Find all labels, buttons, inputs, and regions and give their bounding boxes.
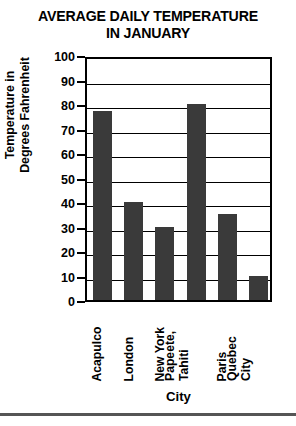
y-axis-tick-label: 70 xyxy=(61,125,75,137)
y-axis-tick xyxy=(77,154,85,156)
y-axis-tick-label: 60 xyxy=(61,149,75,161)
bar xyxy=(218,214,237,300)
plot-area xyxy=(85,57,272,302)
y-axis-title-line-1: Temperature in xyxy=(3,71,17,160)
x-axis-tick-label: QuebecCity xyxy=(226,336,253,381)
x-axis-tick-label: London xyxy=(122,336,136,381)
x-axis-tick-label-line: Quebec xyxy=(225,336,239,381)
x-axis-tick-labels: AcapulcoLondonNew YorkPapeete,TahitiPari… xyxy=(85,305,272,383)
y-axis-tick-marks xyxy=(77,57,85,302)
y-axis-tick-label: 30 xyxy=(61,223,75,235)
y-axis-tick-labels: 1009080706050403020100 xyxy=(40,57,75,302)
y-axis-tick xyxy=(77,301,85,303)
x-axis-tick-label: Papeete,Tahiti xyxy=(164,331,191,381)
y-axis-title-line-2: Degrees Fahrenheit xyxy=(18,35,33,195)
x-axis-tick-label-line: Papeete, xyxy=(163,331,177,381)
y-axis-tick xyxy=(77,203,85,205)
y-axis-tick xyxy=(77,277,85,279)
bar xyxy=(93,111,112,300)
x-axis-tick-label-line: London xyxy=(121,336,135,381)
bars-layer xyxy=(87,59,270,300)
y-axis-tick xyxy=(77,105,85,107)
bar xyxy=(249,276,268,301)
x-axis-tick-label-line: Tahiti xyxy=(178,331,192,381)
y-axis-tick-label: 10 xyxy=(61,272,75,284)
y-axis-tick-label: 0 xyxy=(68,296,75,308)
y-axis-tick-label: 20 xyxy=(61,247,75,259)
y-axis-tick xyxy=(77,56,85,58)
y-axis-title: Temperature in Degrees Fahrenheit xyxy=(3,35,33,195)
x-axis-tick-label-line: City xyxy=(240,336,254,381)
y-axis-tick-label: 40 xyxy=(61,198,75,210)
y-axis-tick-label: 80 xyxy=(61,100,75,112)
y-axis-tick xyxy=(77,130,85,132)
y-axis-tick-label: 50 xyxy=(61,174,75,186)
x-axis-tick-label-line: Acapulco xyxy=(90,326,104,381)
bottom-divider xyxy=(0,413,296,416)
y-axis-tick xyxy=(77,179,85,181)
x-axis-tick-label: Acapulco xyxy=(91,326,105,381)
y-axis-tick xyxy=(77,81,85,83)
chart-title-line-1: AVERAGE DAILY TEMPERATURE xyxy=(38,8,258,24)
bar xyxy=(124,202,143,300)
y-axis-tick-label: 90 xyxy=(61,76,75,88)
y-axis-tick-label: 100 xyxy=(54,51,75,63)
chart-title: AVERAGE DAILY TEMPERATURE IN JANUARY xyxy=(8,8,288,42)
bar xyxy=(187,104,206,300)
y-axis-tick xyxy=(77,252,85,254)
chart-title-line-2: IN JANUARY xyxy=(8,25,288,42)
y-axis-tick xyxy=(77,228,85,230)
bar-chart-figure: AVERAGE DAILY TEMPERATURE IN JANUARY Tem… xyxy=(0,0,296,426)
x-axis-title: City xyxy=(85,389,272,404)
bar xyxy=(155,227,174,301)
